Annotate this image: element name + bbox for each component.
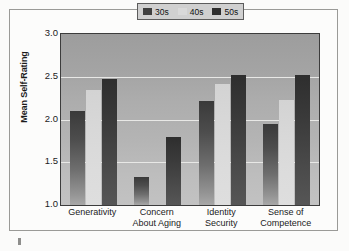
- bar-group: [61, 34, 126, 205]
- bar-30s-sense-of-competence[interactable]: [263, 124, 278, 205]
- x-tick-label: ConcernAbout Aging: [125, 207, 190, 229]
- y-tick-label: 1.0: [32, 198, 58, 209]
- legend-label: 40s: [190, 7, 204, 17]
- legend-swatch-icon-50s: [212, 8, 221, 15]
- legend-entry-50s[interactable]: 50s: [212, 7, 238, 17]
- y-tick-label: 3.0: [32, 27, 58, 38]
- x-tick-label-line: Concern: [125, 207, 190, 218]
- x-tick-label-line: About Aging: [125, 218, 190, 229]
- bar-30s-concern-about-aging[interactable]: [134, 177, 149, 205]
- legend-swatch-icon-30s: [143, 8, 152, 15]
- bar-group: [126, 34, 191, 205]
- figure-container: Mean Self-Rating 1.01.52.02.53.0 30s40s5…: [0, 0, 349, 251]
- legend-label: 50s: [224, 7, 238, 17]
- y-tick-label: 2.0: [32, 113, 58, 124]
- x-tick-label-line: Generativity: [60, 207, 125, 218]
- x-tick-label: Generativity: [60, 207, 125, 218]
- bar-50s-sense-of-competence[interactable]: [295, 75, 310, 205]
- bar-50s-generativity[interactable]: [102, 79, 117, 205]
- legend-entry-40s[interactable]: 40s: [178, 7, 204, 17]
- bar-group: [190, 34, 255, 205]
- y-axis-tick-labels: 1.01.52.02.53.0: [28, 0, 58, 251]
- x-tick-label-line: Security: [189, 218, 254, 229]
- bar-group: [255, 34, 320, 205]
- bar-30s-identity-security[interactable]: [199, 101, 214, 205]
- x-tick-label-line: Sense of: [254, 207, 319, 218]
- x-tick-label-line: Identity: [189, 207, 254, 218]
- bar-40s-sense-of-competence[interactable]: [279, 100, 294, 205]
- bar-40s-identity-security[interactable]: [215, 84, 230, 205]
- legend[interactable]: 30s40s50s: [137, 3, 244, 20]
- x-tick-label: IdentitySecurity: [189, 207, 254, 229]
- bar-50s-identity-security[interactable]: [231, 75, 246, 205]
- y-tick-label: 1.5: [32, 155, 58, 166]
- x-tick-label-line: Competence: [254, 218, 319, 229]
- bar-30s-generativity[interactable]: [70, 111, 85, 205]
- x-tick-label: Sense ofCompetence: [254, 207, 319, 229]
- bar-40s-generativity[interactable]: [86, 90, 101, 205]
- legend-entry-30s[interactable]: 30s: [143, 7, 169, 17]
- y-tick-label: 2.5: [32, 70, 58, 81]
- bar-series-container: [61, 34, 319, 205]
- legend-swatch-icon-40s: [178, 8, 187, 15]
- legend-label: 30s: [155, 7, 169, 17]
- x-axis-tick-labels: GenerativityConcernAbout AgingIdentitySe…: [60, 207, 318, 237]
- corner-marker: [18, 238, 21, 245]
- plot-area: [60, 33, 320, 206]
- bar-50s-concern-about-aging[interactable]: [166, 137, 181, 205]
